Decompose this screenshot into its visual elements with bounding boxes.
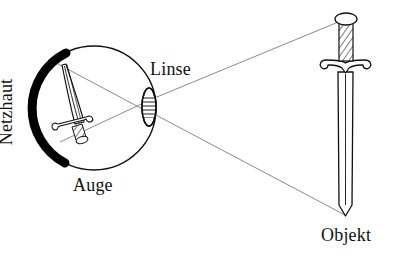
ray-bottom-line [152, 113, 345, 215]
label-objekt: Objekt [321, 226, 371, 244]
lens-hatching [141, 96, 157, 118]
lens-group [141, 88, 157, 126]
object-sword-crossguard [320, 60, 371, 73]
object-sword [320, 13, 371, 216]
object-sword-grip [339, 22, 353, 61]
optics-diagram: Netzhaut Auge Linse Objekt [0, 0, 406, 256]
label-auge: Auge [73, 176, 113, 194]
label-linse: Linse [150, 60, 191, 78]
object-sword-pommel [335, 13, 357, 25]
label-netzhaut: Netzhaut [0, 79, 15, 146]
light-rays-group [152, 18, 348, 215]
eye-group [32, 46, 156, 170]
diagram-canvas [0, 0, 406, 256]
